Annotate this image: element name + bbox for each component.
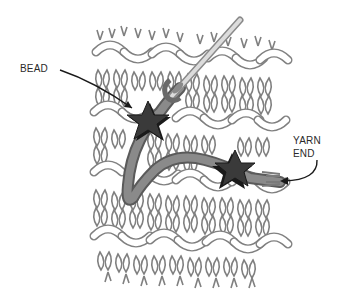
knitting-diagram: BEAD YARN END [0, 0, 340, 297]
yarn-end-arrow [280, 160, 317, 185]
yarn-end-label-line1: YARN [293, 135, 321, 147]
bead-label: BEAD [20, 63, 48, 75]
diagram-illustration [0, 0, 340, 297]
yarn-end-label-line2: END [293, 148, 315, 160]
